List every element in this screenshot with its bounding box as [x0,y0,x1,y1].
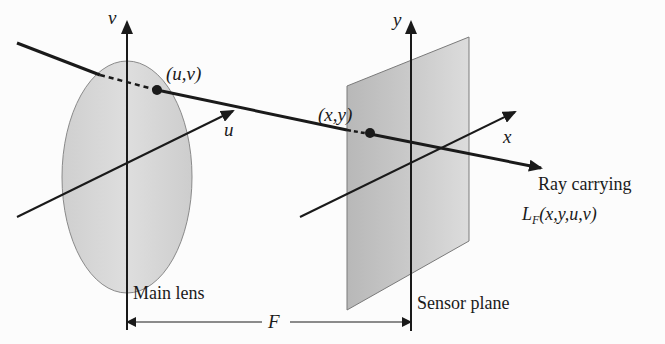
focal-distance-label: F [268,312,280,331]
ray-function-args: (x,y,u,v) [539,204,596,224]
lens-intersection-point [152,85,162,95]
main-lens-label: Main lens [133,284,205,302]
sensor-point-label: (x,y) [318,105,352,124]
lens-point-label: (u,v) [166,64,201,83]
ray-caption: Ray carrying [538,175,631,193]
light-field-diagram: v u (u,v) y x (x,y) Ray carrying LF(x,y,… [0,0,665,344]
ray-function-label: LF(x,y,u,v) [522,205,597,226]
y-axis-label: y [393,10,401,29]
x-axis-label: x [503,127,511,146]
ray-incoming-segment [17,43,100,75]
sensor-plane-label: Sensor plane [417,294,509,312]
sensor-intersection-point [365,128,375,138]
v-axis-label: v [108,8,116,27]
diagram-canvas [0,0,665,344]
sensor-plane-shape [347,37,469,310]
ray-function-name: L [522,204,532,224]
u-axis-label: u [224,120,234,139]
